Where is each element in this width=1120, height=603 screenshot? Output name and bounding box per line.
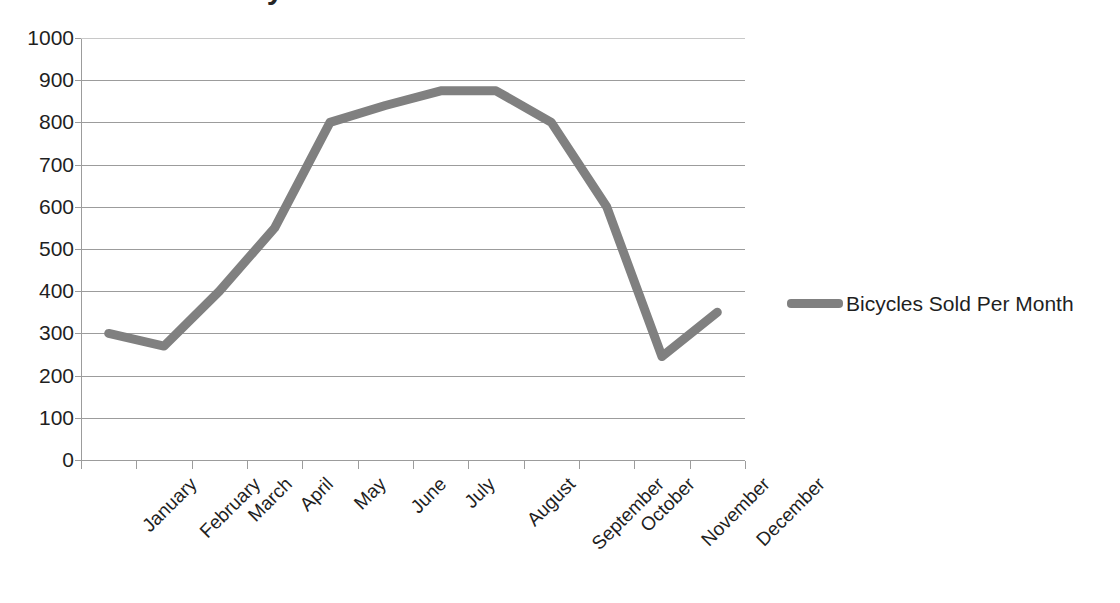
y-tick-mark-800 [75, 122, 81, 123]
chart-container: Bicycles Sold Per Month 1000900800700600… [0, 0, 1120, 603]
y-tick-mark-100 [75, 418, 81, 419]
y-tick-mark-300 [75, 333, 81, 334]
y-tick-mark-500 [75, 249, 81, 250]
y-tick-mark-600 [75, 207, 81, 208]
data-line [109, 91, 718, 357]
y-tick-mark-200 [75, 376, 81, 377]
y-tick-mark-700 [75, 165, 81, 166]
chart-legend: Bicycles Sold Per Month [787, 292, 1074, 315]
y-tick-mark-1000 [75, 38, 81, 39]
y-tick-mark-0 [75, 460, 81, 461]
legend-label-bicycles-sold-per-month: Bicycles Sold Per Month [846, 292, 1074, 315]
legend-swatch-icon [787, 299, 843, 308]
y-tick-mark-900 [75, 80, 81, 81]
y-tick-mark-400 [75, 291, 81, 292]
